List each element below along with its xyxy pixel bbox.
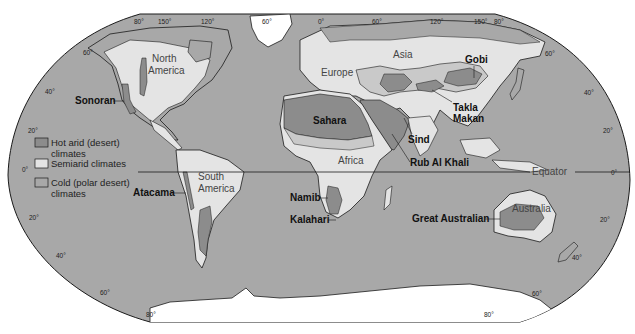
lat-label-right: 20°	[600, 216, 610, 223]
lon-label: 60°	[262, 18, 272, 25]
legend-label-hot-arid-1: Hot arid (desert)	[51, 137, 120, 148]
lon-label: 0°	[318, 18, 325, 25]
lon-label: 60°	[372, 18, 382, 25]
lat-label-left: 20°	[29, 214, 39, 221]
label-gobi: Gobi	[465, 54, 488, 65]
lat-label-right: 0°	[611, 169, 618, 176]
world-desert-map: Equator North America South America Euro…	[0, 0, 635, 334]
legend-label-cold-2: climates	[51, 188, 86, 199]
lon-label: 150°	[158, 18, 172, 25]
label-great-australian: Great Australian	[412, 213, 489, 224]
label-asia: Asia	[393, 49, 413, 60]
label-africa: Africa	[338, 155, 364, 166]
label-north-america-1: North	[152, 53, 176, 64]
label-sonoran: Sonoran	[75, 95, 116, 106]
lon-label: 80°	[134, 18, 144, 25]
label-sind: Sind	[408, 134, 430, 145]
lat-label-left: 40°	[45, 88, 55, 95]
lat-label-left: 60°	[83, 49, 93, 56]
label-namib: Namib	[290, 192, 321, 203]
label-takla-makan-1: Takla	[453, 102, 478, 113]
legend-swatch-semiarid	[35, 159, 48, 168]
label-north-america-2: America	[148, 65, 185, 76]
lat-label-left: 20°	[28, 127, 38, 134]
label-sahara: Sahara	[313, 115, 347, 126]
label-south-america-2: America	[198, 183, 235, 194]
legend-label-semiarid: Semiarid climates	[51, 158, 126, 169]
lat-label-right: 40°	[584, 89, 594, 96]
legend-swatch-hot-arid	[35, 138, 48, 147]
lon-label: 120°	[201, 18, 215, 25]
lat-label-left: 0°	[22, 166, 29, 173]
label-rub-al-khali: Rub Al Khali	[410, 157, 469, 168]
label-takla-makan-2: Makan	[453, 113, 484, 124]
lon-label: 80°	[494, 18, 504, 25]
legend-label-cold-1: Cold (polar desert)	[51, 177, 130, 188]
label-south-america-1: South	[198, 171, 224, 182]
lat-label-right: 80°	[484, 311, 494, 318]
lat-label-left: 40°	[56, 252, 66, 259]
lat-label-right: 60°	[532, 290, 542, 297]
label-europe: Europe	[321, 67, 354, 78]
lon-label: 120°	[430, 18, 444, 25]
lat-label-left: 60°	[100, 289, 110, 296]
lon-label: 150°	[474, 18, 488, 25]
label-kalahari: Kalahari	[290, 214, 330, 225]
label-atacama: Atacama	[133, 187, 175, 198]
label-australia: Australia	[512, 203, 551, 214]
equator-label: Equator	[532, 166, 568, 177]
lat-label-right: 40°	[572, 254, 582, 261]
lat-label-right: 60°	[545, 50, 555, 57]
legend-swatch-cold	[35, 178, 48, 187]
lat-label-left: 80°	[146, 311, 156, 318]
lat-label-right: 20°	[603, 127, 613, 134]
